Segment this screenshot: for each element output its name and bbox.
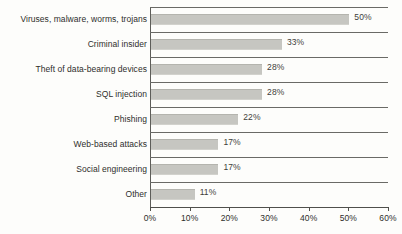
bar-value-label: 28% — [267, 62, 284, 72]
x-axis-tick-label: 20% — [221, 213, 238, 223]
x-axis-tick — [190, 207, 191, 211]
category-label: Web-based attacks — [0, 139, 147, 149]
category-label: Viruses, malware, worms, trojans — [0, 14, 147, 24]
x-axis-tick-label: 0% — [144, 213, 157, 223]
bar — [151, 64, 262, 75]
bar-row: 11% — [150, 182, 388, 207]
row-separator-line — [150, 182, 388, 183]
x-axis-tick-label: 10% — [181, 213, 198, 223]
bar — [151, 139, 218, 150]
bar — [151, 114, 238, 125]
row-separator-line — [150, 157, 388, 158]
bar-value-label: 22% — [243, 112, 260, 122]
x-axis-tick — [348, 207, 349, 211]
category-label: Social engineering — [0, 164, 147, 174]
category-label: Other — [0, 189, 147, 199]
x-axis-tick — [388, 207, 389, 211]
row-separator-line — [150, 107, 388, 108]
bar-row: 28% — [150, 57, 388, 82]
category-label: Theft of data-bearing devices — [0, 64, 147, 74]
x-axis-tick — [150, 207, 151, 211]
category-label: Phishing — [0, 114, 147, 124]
x-axis-tick-label: 60% — [379, 213, 396, 223]
x-axis-tick — [309, 207, 310, 211]
row-separator-line — [150, 57, 388, 58]
bar-value-label: 50% — [354, 12, 371, 22]
bar-row: 17% — [150, 132, 388, 157]
bar-value-label: 11% — [200, 187, 217, 197]
row-separator-line — [150, 132, 388, 133]
bar — [151, 164, 218, 175]
x-axis-tick — [269, 207, 270, 211]
x-axis-tick-label: 30% — [260, 213, 277, 223]
row-separator-line — [150, 82, 388, 83]
bar — [151, 39, 282, 50]
category-label: Criminal insider — [0, 39, 147, 49]
bar-row: 28% — [150, 82, 388, 107]
bar-row: 33% — [150, 32, 388, 57]
bar — [151, 189, 195, 200]
row-separator-line — [150, 7, 388, 8]
bar-value-label: 17% — [223, 137, 240, 147]
bar-value-label: 17% — [223, 162, 240, 172]
bar-value-label: 28% — [267, 87, 284, 97]
bar-row: 22% — [150, 107, 388, 132]
bar-row: 50% — [150, 7, 388, 32]
row-separator-line — [150, 32, 388, 33]
bar-chart: 50%33%28%28%22%17%17%11% Viruses, malwar… — [0, 0, 402, 234]
category-label: SQL injection — [0, 89, 147, 99]
plot-area: 50%33%28%28%22%17%17%11% — [150, 7, 388, 207]
bar-value-label: 33% — [287, 37, 304, 47]
bar-row: 17% — [150, 157, 388, 182]
x-axis-tick — [229, 207, 230, 211]
x-axis-tick-label: 50% — [340, 213, 357, 223]
bar — [151, 89, 262, 100]
bar — [151, 14, 349, 25]
x-axis-tick-label: 40% — [300, 213, 317, 223]
